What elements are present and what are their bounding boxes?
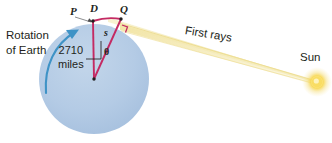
sunrise-geometry-figure: P D Q s θ 2710 miles Rotation of Earth F… (0, 0, 332, 143)
rotation-label-line-2: of Earth (6, 43, 49, 58)
arc-length-label-s: s (104, 28, 108, 38)
rotation-of-earth-label: Rotation of Earth (6, 28, 49, 58)
point-p-leader-line (75, 17, 94, 23)
earth-radius-unit: miles (58, 58, 84, 72)
point-label-p: P (70, 6, 77, 17)
sun-label: Sun (300, 52, 320, 64)
earth-radius-value: 2710 (58, 44, 84, 58)
rotation-label-line-1: Rotation (6, 28, 49, 43)
earth-radius-label: 2710 miles (58, 44, 84, 72)
angle-label-theta: θ (104, 47, 109, 57)
sun-glyph (302, 67, 332, 97)
point-label-q: Q (120, 4, 128, 15)
figure-canvas (0, 0, 332, 143)
point-label-d: D (90, 3, 98, 14)
